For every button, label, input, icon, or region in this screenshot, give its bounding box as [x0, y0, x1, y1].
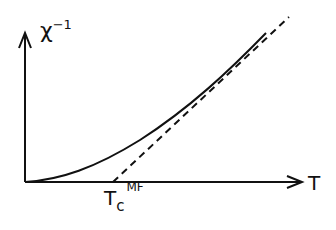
y-axis-label: χ−1 — [40, 17, 72, 43]
x-axis-label: T — [307, 171, 321, 195]
inverse-susceptibility-plot: χ−1 T TcMF — [0, 0, 336, 230]
dashed-asymptote — [113, 17, 289, 182]
diagram: χ−1 T TcMF — [0, 0, 336, 230]
solid-curve — [25, 33, 266, 182]
tc-label: TcMF — [103, 180, 144, 215]
